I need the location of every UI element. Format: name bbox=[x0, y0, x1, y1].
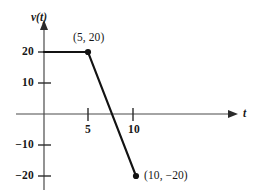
annotation-point-5-20: (5, 20) bbox=[73, 32, 104, 44]
marker-point-5-20 bbox=[85, 49, 91, 55]
marker-point-10-minus20 bbox=[133, 173, 139, 179]
vertical-axis bbox=[40, 20, 48, 190]
velocity-time-graph-figure: v(t) t 20 10 −10 −20 5 10 (5, 20) (10, −… bbox=[0, 0, 259, 194]
x-tick-label-5: 5 bbox=[85, 124, 91, 136]
horizontal-axis bbox=[16, 110, 238, 118]
x-tick-label-10: 10 bbox=[128, 124, 140, 136]
y-tick-label-10: 10 bbox=[0, 77, 34, 89]
y-tick-label-minus-20: −20 bbox=[0, 170, 34, 182]
annotation-point-10-minus-20: (10, −20) bbox=[144, 170, 188, 182]
plot-canvas bbox=[0, 0, 259, 194]
y-axis-label: v(t) bbox=[31, 12, 47, 24]
x-axis-label: t bbox=[243, 108, 246, 120]
y-tick-label-20: 20 bbox=[0, 46, 34, 58]
y-tick-label-minus-10: −10 bbox=[0, 139, 34, 151]
